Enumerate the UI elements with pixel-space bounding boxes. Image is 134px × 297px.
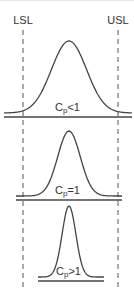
lsl-label: LSL <box>13 14 33 26</box>
capability-diagram: LSL USL Cp<1 Cp=1 Cp>1 <box>0 0 134 297</box>
panel-cp-greater-than-1: Cp>1 <box>38 206 104 281</box>
cp-label-3: Cp>1 <box>56 265 81 279</box>
cp-label-2: Cp=1 <box>55 184 80 198</box>
usl-label: USL <box>107 14 128 26</box>
panel-cp-equal-1: Cp=1 <box>16 131 122 200</box>
cp-label-1: Cp<1 <box>55 101 80 115</box>
